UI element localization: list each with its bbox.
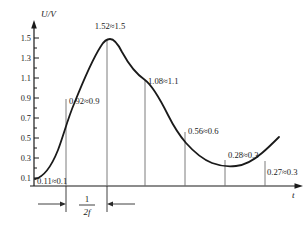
point-label-4: 0.56≈0.6	[188, 126, 219, 136]
point-label-1: 0.92≈0.9	[69, 96, 100, 106]
half-period-annotation: 1 2f	[38, 186, 135, 217]
y-tick-label-0.3: 0.3	[21, 154, 31, 163]
span-arrow-right-head	[107, 201, 113, 206]
sample-droplines	[66, 39, 265, 186]
y-tick-label-0.9: 0.9	[21, 94, 31, 103]
point-label-5: 0.28≈0.3	[228, 150, 259, 160]
point-label-3: 1.08≈1.1	[148, 76, 179, 86]
point-label-6: 0.27≈0.3	[267, 167, 298, 177]
y-tick-label-1.5: 1.5	[21, 34, 31, 43]
x-axis-title: t	[292, 190, 295, 200]
x-axis-arrowhead	[295, 183, 304, 189]
point-label-0: 0.11≈0.1	[37, 176, 67, 186]
point-label-2: 1.52≈1.5	[95, 21, 126, 31]
fraction-denominator: 2f	[83, 207, 92, 217]
y-tick-label-1.1: 1.1	[21, 74, 31, 83]
chart-canvas: 1.5 1.3 1.1 0.9 0.7 0.5 0.3 0.1 U/V t	[0, 0, 308, 228]
y-axis: 1.5 1.3 1.1 0.9 0.7 0.5 0.3 0.1 U/V	[21, 9, 58, 186]
y-tick-label-0.7: 0.7	[21, 114, 31, 123]
y-axis-title: U/V	[41, 9, 57, 19]
span-arrow-left-head	[60, 201, 66, 206]
y-axis-arrowhead	[31, 20, 37, 29]
y-tick-label-1.3: 1.3	[21, 54, 31, 63]
y-tick-label-0.5: 0.5	[21, 134, 31, 143]
x-axis: t	[30, 183, 303, 200]
fraction-numerator: 1	[85, 194, 90, 204]
point-value-labels: 0.11≈0.1 0.92≈0.9 1.52≈1.5 1.08≈1.1 0.56…	[37, 21, 298, 186]
y-tick-label-0.1: 0.1	[21, 174, 31, 183]
chart-figure: 1.5 1.3 1.1 0.9 0.7 0.5 0.3 0.1 U/V t	[0, 0, 308, 228]
